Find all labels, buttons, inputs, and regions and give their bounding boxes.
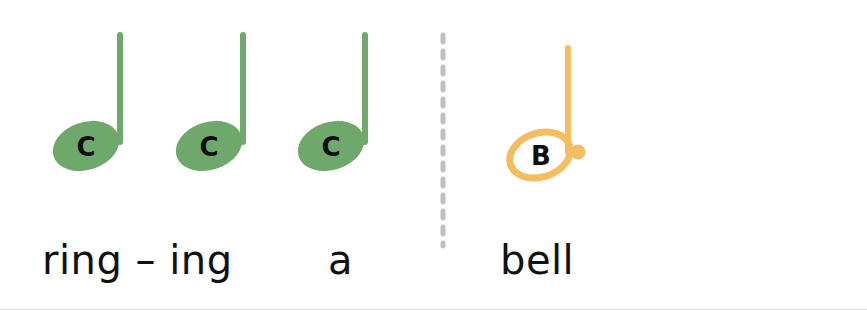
note-letter-label: C	[76, 132, 95, 162]
note-quarter-c-3[interactable]: C	[291, 35, 371, 179]
note-quarter-c-2[interactable]: C	[169, 35, 249, 179]
note-letter-label: B	[531, 141, 551, 171]
note-dotted-half-b[interactable]: B	[504, 48, 586, 186]
notation-canvas: C C C B ring – ing a bell	[0, 0, 867, 310]
augmentation-dot-icon	[571, 145, 586, 160]
note-letter-label: C	[199, 132, 218, 162]
lyric-line: ring – ing a bell	[0, 240, 867, 296]
lyric-ringing: ring – ing	[42, 240, 233, 280]
lyric-a: a	[328, 240, 353, 280]
note-quarter-c-1[interactable]: C	[46, 35, 126, 179]
lyric-bell: bell	[500, 240, 574, 280]
note-letter-label: C	[321, 132, 340, 162]
